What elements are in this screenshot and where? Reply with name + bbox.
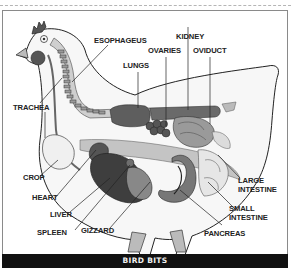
label-gizzard: GIZZARD bbox=[81, 227, 114, 235]
wattle-shape bbox=[31, 51, 45, 65]
label-oviduct: OVIDUCT bbox=[193, 47, 226, 55]
label-spleen: SPLEEN bbox=[37, 229, 67, 237]
label-crop: CROP bbox=[23, 174, 45, 182]
eye-pupil bbox=[43, 38, 46, 41]
label-small-intestine-line1: SMALL bbox=[229, 205, 255, 213]
label-esophageus: ESOPHAGEUS bbox=[94, 37, 147, 45]
label-small-intestine-line2: INTESTINE bbox=[229, 214, 268, 222]
beak-shape bbox=[16, 48, 28, 58]
label-large-intestine-line1: LARGE bbox=[238, 177, 264, 185]
label-ovaries: OVARIES bbox=[148, 47, 181, 55]
lungs-organ bbox=[110, 105, 150, 127]
label-heart: HEART bbox=[32, 194, 58, 202]
caption-bar: BIRD BITS bbox=[2, 254, 288, 268]
label-pancreas: PANCREAS bbox=[204, 230, 245, 238]
label-liver: LIVER bbox=[50, 211, 72, 219]
label-kidney: KIDNEY bbox=[176, 33, 204, 41]
label-large-intestine-line2: INTESTINE bbox=[238, 186, 277, 194]
label-trachea: TRACHEA bbox=[13, 104, 49, 112]
spleen-organ bbox=[126, 159, 134, 167]
label-lungs: LUNGS bbox=[123, 62, 149, 70]
